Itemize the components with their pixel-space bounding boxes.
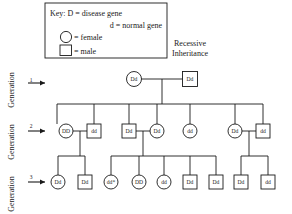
genotype-label: Dd [154,128,161,134]
pedigree-node[interactable]: dd [256,124,270,138]
genotype-label: DD [62,128,70,134]
generation-label-1-text: Generation [7,72,16,108]
genotype-label: Dd [126,128,133,134]
genotype-label: dd [187,128,193,134]
connectors-generation-1 [57,79,263,124]
genotype-label: Dd [55,179,62,185]
genotype-label: Dd [187,76,194,82]
key-line-disease-gene: Key: D = disease gene [50,9,122,18]
genotype-label: Dd [213,179,220,185]
generation-arrow-2-head [40,129,45,134]
generation-2-nodes: DD dd Dd Dd dd Dd [59,124,270,138]
generation-label-3-text: Generation [7,176,16,212]
pedigree-node[interactable]: dd [183,124,197,138]
key-line-normal-gene: d = normal gene [110,21,163,30]
generation-label-2-text: Generation [7,124,16,160]
generation-number-3: 3 [30,174,33,180]
generation-label-2: Generation 2 [7,123,45,160]
pedigree-node[interactable]: Dd [51,175,65,189]
key-line-male: = male [74,47,97,56]
generation-label-3: Generation 3 [7,174,45,212]
square-icon [60,45,72,56]
genotype-label: Dd [187,179,194,185]
pedigree-node[interactable]: Dd [183,72,198,87]
genotype-label: dd [161,179,167,185]
generation-3-nodes: Dd Dd dd* DD dd Dd [51,175,275,189]
genotype-label: dd [265,179,271,185]
pedigree-node[interactable]: dd [87,124,101,138]
generation-number-1: 1 [30,77,33,83]
pedigree-node[interactable]: dd [261,175,275,189]
generation-arrow-1-head [40,81,45,86]
generation-arrow-3-head [40,180,45,185]
pedigree-node[interactable]: Dd [150,124,164,138]
pedigree-node[interactable]: DD [132,175,146,189]
genotype-label: dd [91,128,97,134]
pedigree-node[interactable]: Dd [127,72,142,87]
genotype-label: Dd [131,76,138,82]
generation-number-2: 2 [30,123,33,129]
circle-icon [60,31,71,42]
genotype-label: DD [135,179,143,185]
generation-label-1: Generation 1 [7,72,45,108]
title-line-1: Recessive [174,39,206,48]
genotype-label: dd [260,128,266,134]
pedigree-node[interactable]: Dd [228,124,242,138]
genotype-label: dd* [107,179,116,185]
pedigree-node[interactable]: Dd [234,175,248,189]
pedigree-chart-page: Key: D = disease gene d = normal gene = … [0,0,292,214]
genotype-label: Dd [232,128,239,134]
pedigree-node[interactable]: DD [59,124,73,138]
pedigree-node[interactable]: Dd [209,175,223,189]
genotype-label: Dd [82,179,89,185]
pedigree-node[interactable]: Dd [78,175,92,189]
chart-title: Recessive Inheritance [172,39,208,58]
title-line-2: Inheritance [172,49,208,58]
genotype-label: Dd [238,179,245,185]
pedigree-node[interactable]: Dd [122,124,136,138]
pedigree-diagram: Key: D = disease gene d = normal gene = … [0,0,292,214]
pedigree-node[interactable]: dd [157,175,171,189]
pedigree-node[interactable]: Dd [183,175,197,189]
pedigree-node[interactable]: dd* [104,175,118,189]
key-box: Key: D = disease gene d = normal gene = … [45,3,167,58]
key-line-female: = female [74,33,103,42]
